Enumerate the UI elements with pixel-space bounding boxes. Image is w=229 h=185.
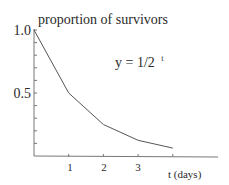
formula-exponent: t (161, 54, 164, 63)
xtick-label-3: 3 (135, 161, 141, 173)
formula-base: y = 1/2 (115, 55, 155, 70)
survival-chart: proportion of survivors 1.0 0.5 1 2 3 t … (0, 0, 229, 185)
axes (34, 29, 218, 157)
survival-curve (34, 30, 173, 148)
formula-annotation: y = 1/2 t (115, 54, 164, 70)
xtick-label-1: 1 (67, 161, 73, 173)
xtick-label-2: 2 (101, 161, 107, 173)
ytick-label-1-0: 1.0 (14, 23, 32, 38)
ytick-label-0-5: 0.5 (14, 86, 32, 101)
y-axis-label: proportion of survivors (38, 12, 168, 27)
x-axis-label: t (days) (168, 168, 202, 181)
x-axis (34, 156, 218, 157)
